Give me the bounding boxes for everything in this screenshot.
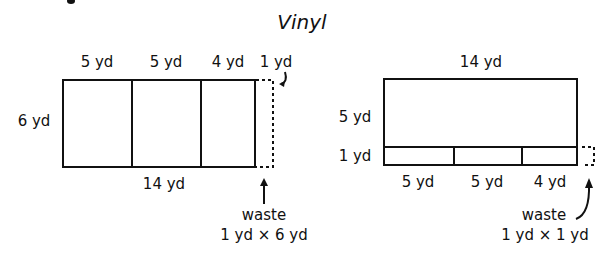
left-waste-strip	[256, 80, 273, 167]
right-bottom-label-2: 5 yd	[471, 173, 504, 191]
right-side-label-1: 5 yd	[339, 108, 372, 126]
right-waste-label: waste	[522, 206, 566, 224]
right-layout: 14 yd 5 yd 1 yd 5 yd 5 yd 4 yd waste 1 y…	[339, 53, 594, 244]
diagram-title: Vinyl	[277, 10, 327, 34]
left-top-label-1: 5 yd	[81, 53, 114, 71]
left-top-label-waste: 1 yd	[260, 53, 293, 71]
right-top-label: 14 yd	[460, 53, 502, 71]
right-arrowhead-icon	[585, 178, 593, 188]
left-waste-label: waste	[242, 206, 286, 224]
left-side-label: 6 yd	[18, 112, 51, 130]
right-waste-dims: 1 yd × 1 yd	[501, 226, 589, 244]
left-bottom-label: 14 yd	[143, 175, 185, 193]
right-bottom-label-3: 4 yd	[534, 173, 567, 191]
left-arrowhead-icon	[279, 81, 285, 87]
right-waste-square	[582, 147, 594, 165]
left-waste-dims: 1 yd × 6 yd	[220, 226, 308, 244]
cropped-glyph	[67, 0, 75, 4]
left-main-rect	[63, 80, 255, 167]
left-up-arrow-icon	[260, 178, 268, 186]
right-side-label-2: 1 yd	[339, 147, 372, 165]
right-main-rect	[384, 79, 577, 165]
left-top-label-2: 5 yd	[150, 53, 183, 71]
vinyl-diagram-canvas: Vinyl 5 yd 5 yd 4 yd 1 yd 6 yd 14 yd was…	[0, 0, 607, 260]
right-curved-arrow	[576, 184, 589, 219]
left-top-label-3: 4 yd	[212, 53, 245, 71]
left-layout: 5 yd 5 yd 4 yd 1 yd 6 yd 14 yd waste 1 y…	[18, 53, 308, 244]
right-bottom-label-1: 5 yd	[402, 173, 435, 191]
